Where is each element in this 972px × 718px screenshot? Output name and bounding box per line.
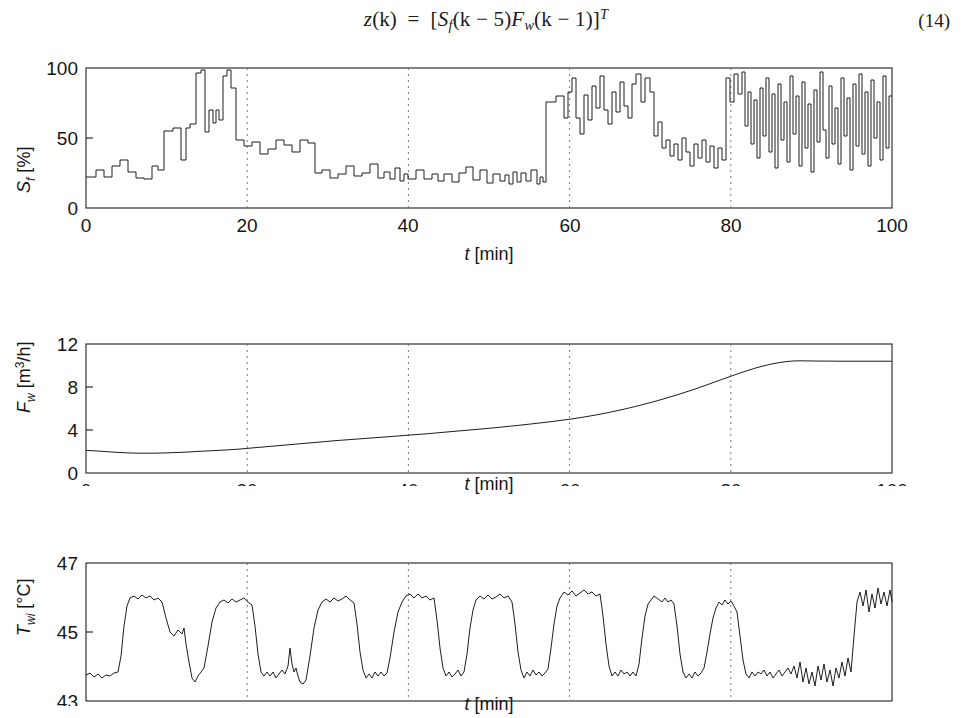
svg-text:Twi [°C]: Twi [°C] xyxy=(14,578,38,636)
y-tick-sf-50: 50 xyxy=(57,128,78,149)
plot-frame-fw xyxy=(86,344,892,473)
x-axis-label-twi-unit: [min] xyxy=(475,694,514,714)
x-tick-sf-100: 100 xyxy=(876,215,908,236)
equation-equals-sign: = xyxy=(408,7,420,31)
equation-expression: z(k) = [Sf(k − 5)Fw(k − 1)]T xyxy=(0,6,972,34)
svg-text:Sf [%]: Sf [%] xyxy=(14,147,38,193)
equation-term-F-argument: (k − 1) xyxy=(534,7,593,31)
equation-term-F: F xyxy=(511,7,524,31)
y-tick-fw-12: 12 xyxy=(57,334,78,355)
equation-term-S: S xyxy=(438,7,449,31)
y-tick-sf-100: 100 xyxy=(46,58,78,79)
y-tick-sf-0: 0 xyxy=(67,198,78,219)
y-axis-label-sf-var: S xyxy=(14,181,34,193)
y-axis-label-twi-sub: wi xyxy=(24,613,38,625)
data-trace-sf xyxy=(86,70,892,184)
plot-panel-sf: Sf [%] 100 50 0 0 20 40 60 80 100 xyxy=(0,48,972,268)
equation-lhs-argument: (k) xyxy=(372,7,397,31)
svg-text:Fw [m3/h]: Fw [m3/h] xyxy=(13,342,38,413)
equation-term-F-subscript: w xyxy=(524,17,534,33)
plot-frame-sf xyxy=(86,68,892,208)
equation-close-bracket: ] xyxy=(593,7,600,31)
y-tick-fw-8: 8 xyxy=(67,377,78,398)
equation-lhs-variable: z xyxy=(364,7,372,31)
y-tick-twi-45: 45 xyxy=(57,622,78,643)
y-tick-twi-43: 43 xyxy=(57,691,78,706)
plot-panel-fw: Fw [m3/h] 12 8 4 0 0 20 40 60 xyxy=(0,268,972,486)
x-axis-label-twi: t [min] xyxy=(464,694,513,714)
y-axis-label-fw-unit-post: /h] xyxy=(14,342,34,362)
x-tick-sf-20: 20 xyxy=(236,215,257,236)
equation-transpose-superscript: T xyxy=(600,6,608,22)
data-trace-fw xyxy=(86,361,892,453)
y-axis-label-twi: Twi [°C] xyxy=(14,578,38,636)
plot-svg-fw: Fw [m3/h] 12 8 4 0 0 20 40 60 xyxy=(0,268,972,486)
y-axis-label-sf-unit: [%] xyxy=(14,147,34,173)
x-axis-label-sf: t [min] xyxy=(464,244,513,264)
equation-number: (14) xyxy=(918,10,950,32)
data-trace-twi xyxy=(86,588,892,686)
equation-term-S-argument: (k − 5) xyxy=(453,7,512,31)
y-axis-label-fw: Fw [m3/h] xyxy=(13,342,38,413)
x-tick-sf-0: 0 xyxy=(81,215,92,236)
plot-panel-twi: Twi [°C] 47 45 43 0 20 40 60 80 1 xyxy=(0,486,972,706)
equation-open-bracket: [ xyxy=(431,7,438,31)
plot-svg-sf: Sf [%] 100 50 0 0 20 40 60 80 100 xyxy=(0,48,972,268)
y-tick-fw-4: 4 xyxy=(67,420,78,441)
figure-three-panel-timeseries: Sf [%] 100 50 0 0 20 40 60 80 100 xyxy=(0,48,972,706)
equation-block: z(k) = [Sf(k − 5)Fw(k − 1)]T (14) xyxy=(0,0,972,48)
x-axis-label-sf-unit: [min] xyxy=(475,244,514,264)
y-axis-label-sf: Sf [%] xyxy=(14,147,38,193)
y-axis-label-fw-unit-pre: [m xyxy=(14,368,34,388)
x-tick-sf-40: 40 xyxy=(397,215,418,236)
x-tick-sf-80: 80 xyxy=(720,215,741,236)
plot-svg-twi: Twi [°C] 47 45 43 0 20 40 60 80 1 xyxy=(0,486,972,706)
plot-frame-twi xyxy=(86,563,892,701)
y-axis-label-twi-unit: [°C] xyxy=(14,578,34,608)
y-tick-twi-47: 47 xyxy=(57,553,78,574)
x-tick-sf-60: 60 xyxy=(559,215,580,236)
y-tick-fw-0: 0 xyxy=(67,463,78,484)
